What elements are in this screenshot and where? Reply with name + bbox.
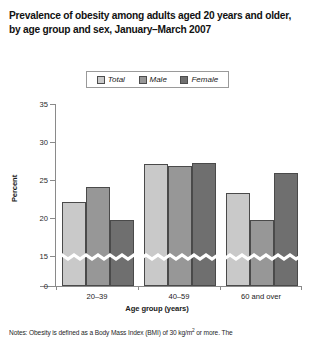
bar-group-40-59 bbox=[144, 104, 216, 286]
chart-plot-area: Percent 35 30 25 20 15 0 bbox=[0, 96, 314, 296]
y-tick-label-25: 25 bbox=[22, 176, 48, 185]
x-tick-1 bbox=[138, 286, 139, 290]
bar-male-60-and-over bbox=[250, 220, 274, 286]
chart-title-line-1: Prevalence of obesity among adults aged … bbox=[9, 9, 305, 23]
legend-item-total: Total bbox=[97, 75, 125, 84]
legend-swatch-male bbox=[139, 76, 147, 84]
x-axis-title: Age group (years) bbox=[0, 304, 314, 313]
x-tick-left bbox=[56, 286, 57, 290]
x-tick-right bbox=[301, 286, 302, 290]
x-category-label-20-39: 20–39 bbox=[56, 292, 138, 301]
footnote-text: Notes: Obesity is defined as a Body Mass… bbox=[9, 329, 192, 336]
bar-total-60-and-over bbox=[226, 193, 250, 286]
y-tick-label-35: 35 bbox=[22, 100, 48, 109]
chart-figure: Prevalence of obesity among adults aged … bbox=[0, 0, 314, 338]
x-axis-line bbox=[40, 286, 302, 287]
bar-group-20-39 bbox=[62, 104, 134, 286]
bar-male-40-59 bbox=[168, 166, 192, 286]
bar-female-40-59 bbox=[192, 163, 216, 286]
x-category-label-40-59: 40–59 bbox=[138, 292, 220, 301]
legend-label-female: Female bbox=[191, 75, 218, 84]
bar-group-60-and-over bbox=[226, 104, 298, 286]
chart-title-line-2: by age group and sex, January–March 2007 bbox=[9, 23, 305, 37]
y-axis-title: Percent bbox=[10, 161, 19, 217]
bar-female-60-and-over bbox=[274, 173, 298, 286]
bar-male-20-39 bbox=[86, 187, 110, 286]
bar-total-20-39 bbox=[62, 202, 86, 286]
legend-item-female: Female bbox=[180, 75, 218, 84]
chart-legend: Total Male Female bbox=[86, 71, 229, 88]
bar-total-40-59 bbox=[144, 164, 168, 286]
x-tick-2 bbox=[220, 286, 221, 290]
x-category-label-60-and-over: 60 and over bbox=[220, 292, 302, 301]
legend-label-total: Total bbox=[108, 75, 125, 84]
legend-label-male: Male bbox=[150, 75, 167, 84]
legend-swatch-total bbox=[97, 76, 105, 84]
y-tick-label-0: 0 bbox=[22, 282, 48, 291]
y-tick-label-30: 30 bbox=[22, 138, 48, 147]
legend-swatch-female bbox=[180, 76, 188, 84]
legend-item-male: Male bbox=[139, 75, 167, 84]
bar-series-container bbox=[56, 104, 302, 286]
chart-title: Prevalence of obesity among adults aged … bbox=[9, 9, 305, 36]
chart-footnote: Notes: Obesity is defined as a Body Mass… bbox=[9, 327, 309, 338]
y-tick-label-20: 20 bbox=[22, 214, 48, 223]
bar-female-20-39 bbox=[110, 220, 134, 286]
y-tick-label-15: 15 bbox=[22, 252, 48, 261]
footnote-text-tail: or more. The bbox=[195, 329, 233, 336]
